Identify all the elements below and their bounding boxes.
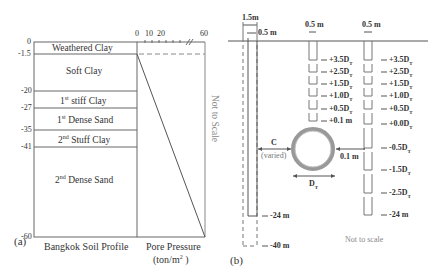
wall-depth-24: -24 m [270,212,289,220]
column2-level: +2.5DT [389,68,413,78]
column2-level: +0.5DT [389,105,413,115]
column2-level: -2.5DT [389,189,411,199]
column2-level: +1.0DT [389,92,413,102]
wall-depth-40: -40 m [270,242,289,250]
column2-level: +3.5DT [389,56,413,66]
panel-b-not-to-scale: Not to scale [345,236,383,244]
clearance-sub-label: (varied) [261,152,286,160]
column1-level: +3.5DT [329,56,353,66]
column1-level: +0.5DT [329,105,353,115]
column2-level: -24 m [389,211,408,221]
panel-b-label: (b) [230,255,243,266]
diameter-label: DT [309,180,318,190]
column1-width-label: 0.5 m [305,21,324,29]
gap-label: 0.1 m [340,153,359,161]
column1-level: +1.5DT [329,80,353,90]
column2-level: -1.5DT [389,166,411,176]
column2-level: +1.5DT [389,80,413,90]
clearance-label: C [271,139,277,147]
wall-inner-width-label: 0.5 m [258,29,277,37]
column2-level: -0.5DT [389,144,411,154]
wall-width-label: 1.5m [242,14,259,22]
column2-level: +0.0DT [389,120,413,130]
column1-level: +2.5DT [329,68,353,78]
column2-width-label: 0.5 m [362,21,381,29]
column1-level: +1.0DT [329,92,353,102]
column1-level: +0.1 m [329,117,352,127]
